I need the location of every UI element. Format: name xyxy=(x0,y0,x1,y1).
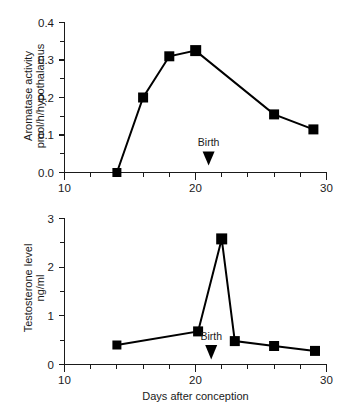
y-tick-label: 0.3 xyxy=(38,54,54,66)
x-tick-label: 30 xyxy=(320,374,333,386)
data-point xyxy=(112,168,121,177)
x-axis-title-testosterone: Days after conception xyxy=(142,390,248,402)
down-triangle-icon xyxy=(203,152,215,166)
y-tick-label: 3 xyxy=(48,213,54,225)
x-axis-ticks-major xyxy=(65,365,327,372)
annotation-birth-top: Birth xyxy=(198,136,220,166)
x-tick-label: 10 xyxy=(58,374,71,386)
y-tick-label: 0.0 xyxy=(38,167,54,179)
data-point xyxy=(230,336,240,346)
y-axis-tick-labels: 0 1 2 3 xyxy=(48,213,54,371)
panel-aromatase-activity: Aromatase activity pmol/h/hypothalamus xyxy=(0,0,338,200)
figure-two-panel-line-charts: Aromatase activity pmol/h/hypothalamus xyxy=(0,0,338,403)
y-tick-label: 1 xyxy=(48,310,54,322)
panel-testosterone-level: Testosterone level ng/ml 0 1 2 3 xyxy=(0,196,338,403)
y-tick-label: 0.1 xyxy=(38,129,54,141)
data-point xyxy=(190,45,201,56)
annotation-birth-bottom: Birth xyxy=(200,330,222,360)
y-axis-title-testosterone: Testosterone level ng/ml xyxy=(22,244,46,333)
y-tick-label: 0 xyxy=(48,359,54,371)
data-point xyxy=(164,51,174,61)
y-axis-ticks-major xyxy=(59,23,65,173)
x-axis-tick-labels: 10 20 30 xyxy=(58,374,333,386)
chart-testosterone-level: Testosterone level ng/ml 0 1 2 3 xyxy=(0,196,338,403)
x-tick-label: 20 xyxy=(189,182,202,194)
data-point xyxy=(310,346,320,356)
data-point xyxy=(138,93,148,103)
x-tick-label: 10 xyxy=(58,182,71,194)
data-point xyxy=(269,109,279,119)
down-triangle-icon xyxy=(205,345,217,360)
data-point xyxy=(112,341,121,350)
data-line-aromatase xyxy=(117,51,314,173)
x-axis-tick-labels: 10 20 30 xyxy=(58,182,333,194)
y-axis-title-line-2: ng/ml xyxy=(34,275,46,302)
y-tick-label: 2 xyxy=(48,261,54,273)
y-axis-tick-labels: 0.0 0.1 0.2 0.3 0.4 xyxy=(38,17,55,179)
chart-aromatase-activity: Aromatase activity pmol/h/hypothalamus xyxy=(0,0,338,200)
birth-label: Birth xyxy=(198,136,220,148)
y-axis-title-line-1: Testosterone level xyxy=(22,244,34,333)
data-point xyxy=(269,341,279,351)
x-tick-label: 20 xyxy=(189,374,202,386)
y-tick-label: 0.4 xyxy=(38,17,55,29)
data-markers-aromatase xyxy=(112,45,318,177)
y-axis-ticks-minor xyxy=(60,243,65,340)
x-axis-ticks-major xyxy=(65,173,327,180)
data-point xyxy=(308,124,318,134)
birth-label: Birth xyxy=(200,330,222,342)
y-axis-title-line-1: Aromatase activity xyxy=(22,51,34,141)
y-tick-label: 0.2 xyxy=(38,92,54,104)
x-tick-label: 30 xyxy=(320,182,333,194)
data-point xyxy=(216,233,227,244)
